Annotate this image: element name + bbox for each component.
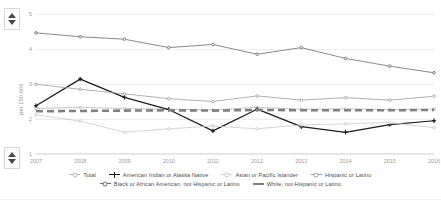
scroll-down-spinner[interactable]: [4, 147, 20, 169]
legend-row: Black or African American, not Hispanic …: [100, 180, 341, 187]
legend-label: Total: [83, 172, 95, 178]
triangle-down-icon[interactable]: [8, 159, 16, 164]
x-axis-tick-label: 2010: [163, 158, 175, 164]
plot-area: 54321: [36, 14, 434, 154]
x-axis-tick-label: 2008: [74, 158, 86, 164]
x-axis-tick-label: 2011: [207, 158, 219, 164]
legend-label: Hispanic or Latino: [325, 172, 372, 178]
series-hispanic-or-latino: [35, 83, 436, 103]
series-white-not-hispanic-or-latino: [36, 110, 434, 111]
legend-item[interactable]: Black or African American, not Hispanic …: [100, 180, 240, 187]
chart-legend: TotalAmerican Indian or Alaska NativeAsi…: [0, 171, 441, 187]
legend-marker-icon: [221, 171, 232, 178]
x-axis-tick-label: 2012: [251, 158, 263, 164]
legend-label: American Indian or Alaska Native: [123, 172, 209, 178]
legend-marker-icon: [109, 171, 120, 178]
series-lines: [36, 14, 434, 154]
legend-marker-icon: [100, 180, 111, 187]
legend-row: TotalAmerican Indian or Alaska NativeAsi…: [69, 171, 371, 178]
legend-marker-icon: [253, 180, 264, 187]
footer-divider: [0, 199, 441, 200]
legend-item[interactable]: White, not Hispanic or Latino: [253, 180, 341, 187]
series-asian-or-pacific-islander: [35, 114, 436, 134]
x-axis-tick-label: 2016: [428, 158, 440, 164]
x-axis-ticks: 2007200820092010201120122013201420152016: [36, 158, 434, 170]
legend-item[interactable]: Hispanic or Latino: [311, 171, 372, 178]
triangle-up-icon[interactable]: [8, 152, 16, 157]
legend-label: Black or African American, not Hispanic …: [114, 181, 240, 187]
triangle-up-icon[interactable]: [8, 13, 16, 18]
y-axis-tick-label: 5: [29, 11, 32, 17]
legend-label: White, not Hispanic or Latino: [267, 181, 341, 187]
legend-item[interactable]: Asian or Pacific Islander: [221, 171, 298, 178]
series-black-or-african-american-not-hispanic-or-latino: [35, 32, 436, 75]
series-american-indian-or-alaska-native: [34, 77, 436, 135]
x-axis-tick-label: 2015: [384, 158, 396, 164]
legend-label: Asian or Pacific Islander: [235, 172, 298, 178]
y-axis-tick-label: 1: [29, 151, 32, 157]
scroll-up-spinner[interactable]: [4, 8, 20, 30]
y-axis-tick-label: 2: [29, 116, 32, 122]
x-axis-tick-label: 2014: [340, 158, 352, 164]
y-axis-tick-label: 4: [29, 46, 32, 52]
legend-marker-icon: [311, 171, 322, 178]
legend-marker-icon: [69, 171, 80, 178]
legend-item[interactable]: American Indian or Alaska Native: [109, 171, 209, 178]
legend-item[interactable]: Total: [69, 171, 95, 178]
x-axis-tick-label: 2009: [118, 158, 130, 164]
gridline: [36, 154, 434, 155]
y-axis-title: per 100,000: [18, 64, 24, 134]
x-axis-tick-label: 2013: [295, 158, 307, 164]
chart-widget: per 100,000 54321 2007200820092010201120…: [0, 0, 441, 202]
x-axis-tick-label: 2007: [30, 158, 42, 164]
y-axis-tick-label: 3: [29, 81, 32, 87]
triangle-down-icon[interactable]: [8, 20, 16, 25]
